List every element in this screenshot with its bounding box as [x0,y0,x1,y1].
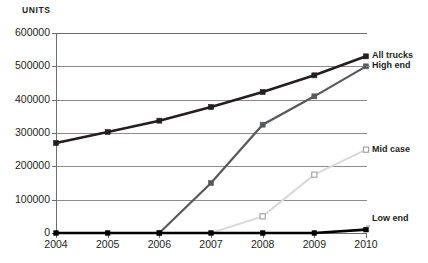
series-line [56,56,366,143]
series-mid-case [56,147,369,233]
data-point-marker [54,231,59,236]
legend-item-mid-case: Mid case [372,144,410,154]
data-point-marker [312,172,317,177]
data-point-marker [209,181,214,186]
data-point-marker [364,227,369,232]
series-plot-layer [0,0,428,263]
series-line [56,66,366,233]
data-point-marker [157,231,162,236]
data-point-marker [312,231,317,236]
data-point-marker [260,231,265,236]
legend-item-high-end: High end [372,60,411,70]
data-point-marker [312,73,317,78]
data-point-marker [260,90,265,95]
series-low-end [54,227,369,235]
data-point-marker [260,214,265,219]
data-point-marker [54,141,59,146]
data-point-marker [363,147,368,152]
data-point-marker [157,118,162,123]
legend-item-low-end: Low end [372,213,409,223]
data-point-marker [209,105,214,110]
series-all-trucks [54,54,369,146]
data-point-marker [105,130,110,135]
series-high-end [56,64,369,236]
series-line [56,150,366,233]
legend-item-all-trucks: All trucks [372,50,413,60]
data-point-marker [260,122,265,127]
chart-container: Units 0100000200000300000400000500000600… [0,0,428,263]
data-point-marker [105,231,110,236]
data-point-marker [209,231,214,236]
data-point-marker [364,54,369,59]
data-point-marker [312,94,317,99]
